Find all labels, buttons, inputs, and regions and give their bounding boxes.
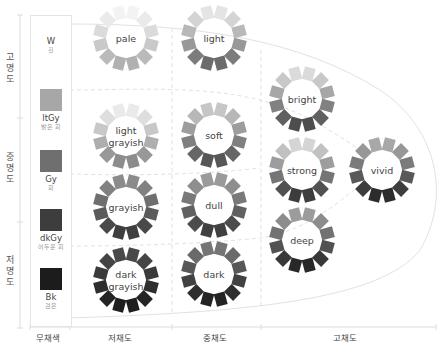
tone-tile <box>93 24 108 38</box>
tone-tile <box>214 5 228 20</box>
tone-tile <box>399 156 414 170</box>
tone-tile <box>187 108 204 125</box>
tone-wheel-vivid: vivid <box>349 137 415 203</box>
tone-tile <box>288 257 302 272</box>
tone-tile <box>275 109 292 126</box>
tone-tile <box>275 250 292 267</box>
tone-tile <box>136 48 153 65</box>
tone-label-vivid: vivid <box>371 165 394 176</box>
tone-tile <box>143 122 158 136</box>
tone-tile <box>181 135 196 149</box>
tone-tile <box>392 180 409 197</box>
tone-tile <box>112 297 126 312</box>
achromatic-item-dkgy: dkGy 어두운 회 <box>31 209 71 251</box>
swatch-code: W <box>31 36 71 46</box>
tone-tile <box>99 146 116 163</box>
tone-tile <box>214 291 228 306</box>
tone-wheel-light-grayish: lightgrayish <box>93 103 159 169</box>
tone-tile <box>126 55 140 70</box>
tone-tile <box>112 153 126 168</box>
tone-tile <box>181 121 196 135</box>
tone-tile <box>93 207 108 221</box>
tone-tile <box>302 116 316 131</box>
tone-tile <box>112 247 126 262</box>
tone-wheel-deep: deep <box>269 207 335 273</box>
tone-tile <box>224 178 241 195</box>
tone-tile <box>224 284 241 301</box>
tone-label-light-grayish: lightgrayish <box>109 125 144 148</box>
swatch-w <box>40 24 62 34</box>
swatch-name: 밝은 회 <box>31 123 71 131</box>
tone-tile <box>214 102 228 117</box>
tone-tile <box>319 156 334 170</box>
tone-tile <box>302 257 316 272</box>
tone-tile <box>126 297 140 312</box>
tone-tile <box>143 280 158 294</box>
tone-tile <box>181 205 196 219</box>
tone-tile <box>231 274 246 288</box>
swatch-code: Bk <box>31 292 71 302</box>
tone-tile <box>231 24 246 38</box>
tone-tile <box>231 260 246 274</box>
tone-tile <box>187 215 204 232</box>
tone-tile <box>368 137 382 152</box>
tone-tile <box>288 116 302 131</box>
tone-wheel-dark-grayish: darkgrayish <box>93 247 159 313</box>
swatch-code: dkGy <box>31 233 71 243</box>
tone-tile <box>143 193 158 207</box>
tone-tile <box>112 103 126 118</box>
tone-label-line: grayish <box>109 202 144 213</box>
tone-tile <box>143 207 158 221</box>
tone-tile <box>224 145 241 162</box>
tone-tile <box>214 172 228 187</box>
lightness-label-mid: 중명도 <box>4 152 16 185</box>
tone-tile <box>319 170 334 184</box>
tone-label-line: strong <box>287 165 317 176</box>
tone-tile <box>126 153 140 168</box>
tone-tile <box>302 207 316 222</box>
tone-wheel-dark: dark <box>181 241 247 307</box>
tone-tile <box>312 250 329 267</box>
tone-tile <box>312 72 329 89</box>
tone-tile <box>269 170 284 184</box>
tone-tile <box>136 217 153 234</box>
tone-tile <box>368 187 382 202</box>
tone-tile <box>200 152 214 167</box>
tone-tile <box>112 224 126 239</box>
tone-tile <box>93 193 108 207</box>
tone-tile <box>312 143 329 160</box>
tone-label-line: deep <box>290 235 314 246</box>
tone-tile <box>200 5 214 20</box>
tone-label-bright: bright <box>288 94 317 105</box>
tone-tile <box>275 213 292 230</box>
tone-label-deep: deep <box>290 235 314 246</box>
tone-tile <box>214 222 228 237</box>
tone-tile <box>143 38 158 52</box>
tone-wheel-pale: pale <box>93 5 159 71</box>
tone-tile <box>224 247 241 264</box>
tone-label-dark-grayish: darkgrayish <box>109 269 144 292</box>
tone-label-grayish: grayish <box>109 202 144 213</box>
tone-tile <box>231 191 246 205</box>
tone-tile <box>399 170 414 184</box>
tone-tile <box>349 156 364 170</box>
tone-wheel-dull: dull <box>181 172 247 238</box>
lightness-label-high: 고명도 <box>4 52 16 85</box>
tone-tile <box>382 137 396 152</box>
tone-tile <box>200 55 214 70</box>
swatch-name: 어두운 회 <box>31 243 71 251</box>
tone-tile <box>99 48 116 65</box>
tone-label-strong: strong <box>287 165 317 176</box>
tone-label-soft: soft <box>205 130 223 141</box>
tone-tile <box>112 5 126 20</box>
tone-tile <box>99 109 116 126</box>
tone-tile <box>312 213 329 230</box>
tone-tile <box>214 241 228 256</box>
achromatic-item-gy: Gy 회 <box>31 150 71 192</box>
tone-tile <box>93 280 108 294</box>
tone-tile <box>99 180 116 197</box>
lightness-label-low: 저명도 <box>4 255 16 288</box>
tone-tile <box>99 253 116 270</box>
swatch-gy <box>40 150 62 172</box>
tone-wheel-soft: soft <box>181 102 247 168</box>
